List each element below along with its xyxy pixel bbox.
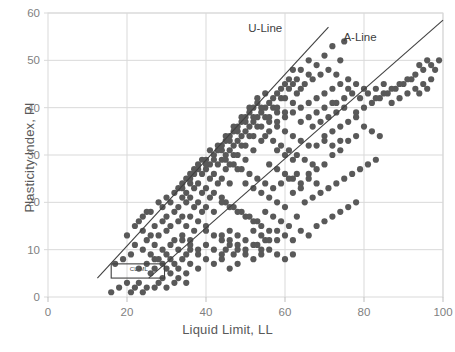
plasticity-chart: 0102030405060020406080100 U-LineA-LineCL…	[0, 0, 455, 352]
svg-text:20: 20	[121, 306, 134, 318]
svg-text:40: 40	[200, 306, 213, 318]
x-axis-title: Liquid Limit, LL	[0, 322, 455, 337]
axis-ticks: 0102030405060020406080100	[27, 7, 452, 318]
svg-text:0: 0	[45, 306, 51, 318]
chart-canvas: 0102030405060020406080100 U-LineA-LineCL…	[0, 0, 455, 352]
svg-text:0: 0	[34, 291, 40, 303]
svg-text:60: 60	[27, 7, 40, 19]
a-line-label: A-Line	[343, 31, 376, 43]
svg-text:100: 100	[433, 306, 452, 318]
y-axis-title: Plasticity Index, PI	[22, 53, 37, 263]
svg-text:80: 80	[358, 306, 371, 318]
u-line-label: U-Line	[248, 22, 282, 34]
cl-ml-label: CL-ML	[130, 266, 149, 272]
svg-text:60: 60	[279, 306, 292, 318]
